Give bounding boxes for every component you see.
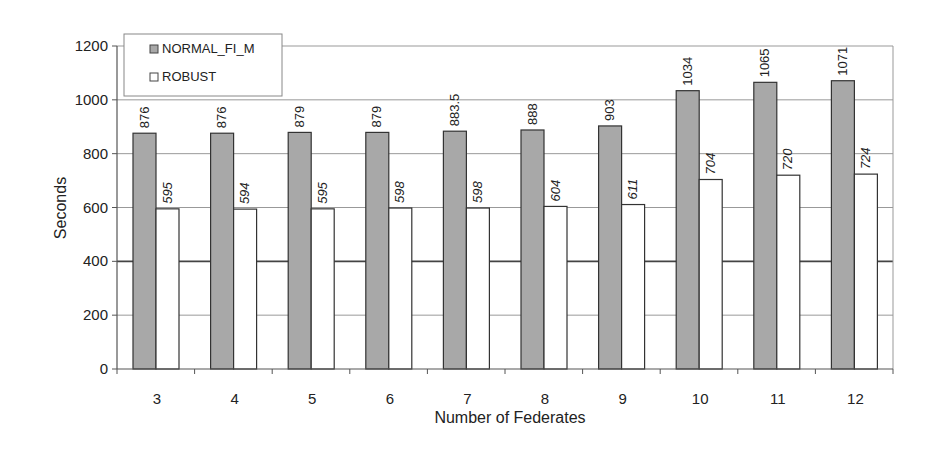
x-tick-label: 11 (770, 390, 786, 407)
y-tick-label: 600 (83, 199, 108, 216)
bar-normal (831, 81, 854, 369)
value-label-robust: 611 (625, 179, 640, 200)
x-tick-label: 10 (692, 390, 709, 407)
y-tick-label: 200 (83, 306, 108, 323)
bar-robust (311, 209, 334, 369)
bar-normal (443, 131, 466, 369)
value-label-robust: 604 (548, 180, 563, 202)
value-label-robust: 704 (703, 153, 718, 175)
bar-robust (234, 209, 257, 369)
x-tick-label: 12 (847, 390, 864, 407)
y-tick-label: 0 (100, 360, 108, 377)
bar-chart: 876595876594879595879598883.559888860490… (0, 0, 944, 452)
bar-robust (466, 208, 489, 369)
y-tick-label: 1000 (75, 91, 108, 108)
y-tick-label: 800 (83, 145, 108, 162)
value-label-normal: 879 (369, 106, 384, 128)
value-label-robust: 595 (160, 181, 175, 203)
bar-robust (544, 206, 567, 369)
value-label-normal: 876 (214, 107, 229, 129)
value-label-normal: 879 (292, 106, 307, 128)
x-tick-label: 8 (541, 390, 549, 407)
x-tick-labels: 3456789101112 (153, 390, 864, 407)
bar-normal (676, 91, 699, 369)
legend-swatch-normal (150, 45, 158, 53)
bar-normal (366, 132, 389, 369)
value-label-robust: 594 (237, 182, 252, 204)
value-label-normal: 1034 (680, 57, 695, 86)
bar-normal (211, 133, 234, 369)
value-label-robust: 598 (392, 181, 407, 203)
y-tick-labels: 020040060080010001200 (75, 37, 108, 377)
value-label-normal: 883.5 (447, 94, 462, 127)
bar-normal (521, 130, 544, 369)
y-tick-label: 1200 (75, 37, 108, 54)
legend-swatch-robust (150, 73, 158, 81)
bar-robust (854, 174, 877, 369)
bar-normal (599, 126, 622, 369)
value-label-robust: 724 (858, 147, 873, 169)
x-tick-label: 4 (230, 390, 238, 407)
bar-robust (777, 175, 800, 369)
bar-robust (389, 208, 412, 369)
legend-label-robust: ROBUST (162, 69, 216, 84)
x-tick-label: 6 (386, 390, 394, 407)
x-tick-label: 7 (463, 390, 471, 407)
value-label-normal: 903 (602, 99, 617, 121)
value-label-normal: 1065 (757, 48, 772, 77)
bar-normal (133, 133, 156, 369)
legend: NORMAL_FI_M ROBUST (124, 34, 282, 96)
bar-normal (288, 132, 311, 369)
value-label-robust: 595 (315, 181, 330, 203)
value-label-normal: 888 (525, 103, 540, 125)
y-axis-title: Seconds (52, 177, 69, 239)
value-label-normal: 1071 (835, 47, 850, 76)
value-label-robust: 720 (780, 148, 795, 170)
value-label-normal: 876 (137, 107, 152, 129)
bar-robust (699, 180, 722, 369)
x-tick-label: 5 (308, 390, 316, 407)
value-label-robust: 598 (470, 181, 485, 203)
bar-robust (622, 205, 645, 369)
y-tick-label: 400 (83, 252, 108, 269)
x-tick-label: 3 (153, 390, 161, 407)
x-tick-label: 9 (618, 390, 626, 407)
x-axis-title: Number of Federates (434, 409, 585, 426)
legend-label-normal: NORMAL_FI_M (162, 41, 254, 56)
bar-normal (754, 82, 777, 369)
bar-robust (156, 209, 179, 369)
